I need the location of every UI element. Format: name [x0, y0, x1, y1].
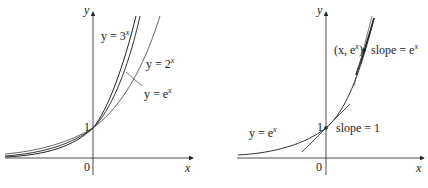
- left-graph: y x 0 1 y = 3x y = 2x y = ex: [5, 3, 193, 175]
- label-3x: y = 3x: [101, 28, 130, 43]
- y-intercept-label: 1: [317, 120, 323, 134]
- origin-label: 0: [316, 160, 322, 174]
- curve-2x: [5, 16, 160, 154]
- point-label: (x, ex): [334, 42, 363, 57]
- label-ex: y = ex: [144, 86, 172, 101]
- label-pointer: [126, 72, 142, 86]
- y-intercept-label: 1: [84, 120, 90, 134]
- slope-one-label: slope = 1: [336, 121, 380, 135]
- x-axis-label: x: [415, 161, 422, 175]
- y-axis-label: y: [316, 3, 323, 17]
- y-axis-label: y: [83, 3, 90, 17]
- figure: y x 0 1 y = 3x y = 2x y = ex y x 0 1 slo…: [0, 0, 428, 188]
- x-axis-label: x: [184, 161, 191, 175]
- label-ex: y = ex: [249, 125, 277, 140]
- slope-ex-label: slope = ex: [371, 42, 418, 57]
- right-graph: y x 0 1 slope = 1 y = ex (x, ex) slope =…: [237, 3, 424, 175]
- origin-label: 0: [84, 160, 90, 174]
- label-2x: y = 2x: [146, 56, 175, 71]
- point-0-1: [324, 126, 328, 130]
